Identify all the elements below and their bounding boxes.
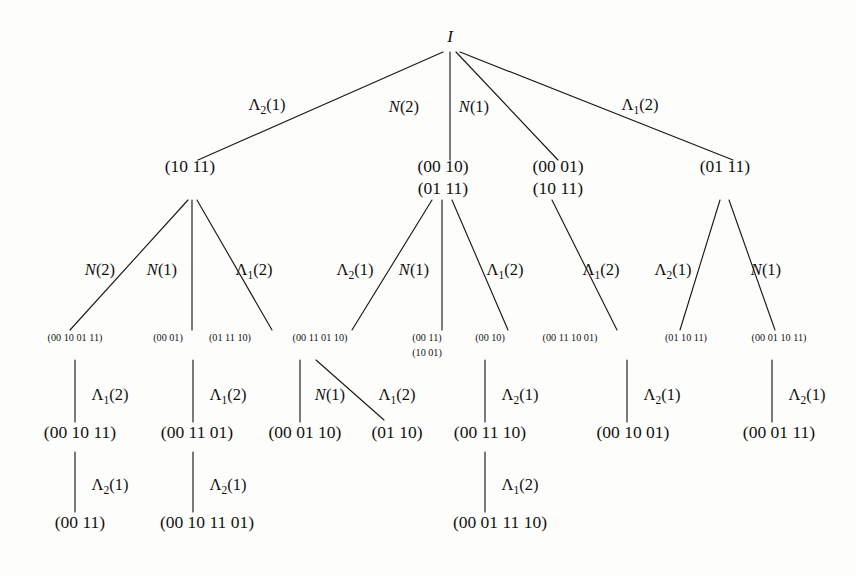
tree-node-label: (00 10) [417,156,468,176]
tree-node-label: (00 01 10 11) [752,332,807,344]
tree-node-label: (01 10) [371,422,422,442]
tree-node: (00 11) [55,512,106,532]
tree-node: (00 10 01 11) [48,332,103,344]
tree-node: (00 10 11) [44,422,116,442]
tree-edge [452,200,508,330]
tree-node: (00 10 11 01) [160,512,254,532]
tree-node-label: (00 01 11) [743,422,815,442]
tree-node: (00 01 10) [269,422,342,442]
tree-node-label: (00 10 11 01) [160,512,254,532]
tree-node: (01 10 11) [665,332,707,344]
edge-label: N(1) [398,260,429,279]
tree-node-label: (01 10 11) [665,332,707,344]
tree-node-label: (00 11 10) [454,422,526,442]
edge-label: N(2) [388,97,419,116]
tree-node-label: (01 11) [700,156,751,176]
edge-label: Λ1(2) [622,95,659,116]
tree-node: (01 11) [700,156,751,176]
tree-node-label: (00 11) [55,512,106,532]
edge-label: Λ1(2) [92,385,129,406]
tree-node-label: (00 11 10 01) [543,332,598,344]
tree-node: (00 10)(01 11) [417,156,468,198]
edge-label: Λ2(1) [789,385,826,406]
tree-node-label: (10 11) [533,178,584,198]
edge-label: N(1) [458,97,489,116]
edge-label: Λ1(2) [210,385,247,406]
tree-node-label: I [446,27,454,46]
tree-node: (00 11 01) [161,422,233,442]
tree-node: (00 01 11 10) [453,512,547,532]
derivation-tree-figure: Λ2(1)N(2)N(1)Λ1(2)N(2)N(1)Λ1(2)Λ2(1)N(1)… [0,0,856,576]
tree-node: (10 11) [165,156,216,176]
edge-label: Λ1(2) [583,260,620,281]
tree-node: I [446,27,454,46]
edge-label: Λ1(2) [487,260,524,281]
tree-node: (00 11 10) [454,422,526,442]
edge-label: Λ2(1) [210,475,247,496]
tree-node: (00 11 01 10) [293,332,348,344]
tree-node-label: (10 01) [412,347,442,359]
tree-node-label: (01 11 10) [209,332,251,344]
tree-node: (00 01 11) [743,422,815,442]
edge-label: Λ1(2) [502,475,539,496]
tree-node-label: (00 01) [532,156,583,176]
tree-node-label: (00 11) [412,332,441,344]
edge-label: Λ2(1) [644,385,681,406]
edge-label: Λ1(2) [379,385,416,406]
edge-label: Λ2(1) [655,260,692,281]
edge-label: N(1) [146,260,177,279]
tree-node-label: (00 10 11) [44,422,116,442]
tree-node-label: (00 10 01 11) [48,332,103,344]
tree-edges-layer [70,52,775,512]
tree-node: (00 10) [475,332,505,344]
tree-node-label: (00 10) [475,332,505,344]
tree-node: (00 01) [153,332,183,344]
edge-label: Λ2(1) [502,385,539,406]
edge-label: Λ2(1) [92,475,129,496]
tree-nodes-layer: I(10 11)(00 10)(01 11)(00 01)(10 11)(01 … [44,27,815,532]
tree-canvas: Λ2(1)N(2)N(1)Λ1(2)N(2)N(1)Λ1(2)Λ2(1)N(1)… [0,0,856,576]
tree-node: (00 11 10 01) [543,332,598,344]
tree-node-label: (00 01 10) [269,422,342,442]
tree-node-label: (00 01) [153,332,183,344]
tree-node: (00 01 10 11) [752,332,807,344]
tree-node-label: (00 11 01) [161,422,233,442]
tree-node: (00 10 01) [597,422,670,442]
tree-node-label: (00 01 11 10) [453,512,547,532]
tree-node: (01 10) [371,422,422,442]
tree-node-label: (01 11) [418,178,469,198]
edge-label: Λ2(1) [337,260,374,281]
edge-label: N(1) [750,260,781,279]
tree-node: (01 11 10) [209,332,251,344]
edge-label: N(2) [84,260,115,279]
tree-node-label: (10 11) [165,156,216,176]
tree-node-label: (00 11 01 10) [293,332,348,344]
edge-label: N(1) [314,385,345,404]
tree-node: (00 11)(10 01) [412,332,442,359]
edge-label: Λ1(2) [236,260,273,281]
tree-node-label: (00 10 01) [597,422,670,442]
tree-edge [460,52,733,160]
tree-node: (00 01)(10 11) [532,156,583,198]
edge-label: Λ2(1) [249,95,286,116]
